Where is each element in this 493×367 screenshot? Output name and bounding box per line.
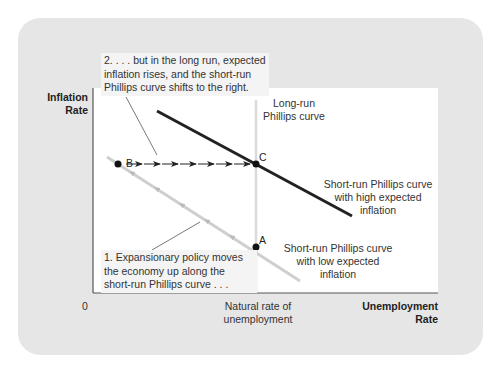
annotation-2-line2: inflation rises, and the short-run (104, 68, 266, 82)
low-srpc-label-line1: Short-run Phillips curve (282, 242, 394, 255)
y-axis-label-line2: Rate (34, 104, 88, 117)
annotation-2-line1: 2. . . . but in the long run, expected (104, 54, 266, 68)
annotation-1: 1. Expansionary policy moves the economy… (101, 250, 257, 293)
lrpc-label-line1: Long-run (258, 97, 330, 110)
natural-rate-label-line2: unemployment (216, 313, 300, 326)
origin-label: 0 (82, 300, 88, 313)
point-b-label: B (126, 157, 133, 169)
low-srpc-label-line2: with low expected (282, 255, 394, 268)
annotation-2: 2. . . . but in the long run, expected i… (101, 53, 269, 96)
high-srpc-label-line2: with high expected (322, 191, 434, 204)
point-c-label: C (259, 151, 267, 163)
y-axis-label-line1: Inflation (34, 91, 88, 104)
natural-rate-label-line1: Natural rate of (216, 300, 300, 313)
x-axis-label-line2: Rate (340, 313, 438, 326)
point-a-label: A (259, 234, 266, 246)
annotation-1-line2: the economy up along the (104, 265, 254, 279)
annotation-2-line3: Phillips curve shifts to the right. (104, 81, 266, 95)
leader-line-1 (152, 222, 200, 250)
high-srpc-label-line3: inflation (322, 204, 434, 217)
lrpc-label: Long-run Phillips curve (258, 97, 330, 123)
annotation-1-line3: short-run Phillips curve . . . (104, 278, 254, 292)
y-axis-label: Inflation Rate (34, 91, 88, 117)
leader-line-2 (126, 97, 157, 155)
point-b (115, 161, 122, 168)
natural-rate-label: Natural rate of unemployment (216, 300, 300, 326)
low-srpc-label-line3: inflation (282, 268, 394, 281)
lrpc-label-line2: Phillips curve (258, 110, 330, 123)
low-srpc-label: Short-run Phillips curve with low expect… (282, 242, 394, 281)
x-axis-label: Unemployment Rate (340, 300, 438, 326)
x-axis-label-line1: Unemployment (340, 300, 438, 313)
high-srpc-label: Short-run Phillips curve with high expec… (322, 178, 434, 217)
annotation-1-line1: 1. Expansionary policy moves (104, 251, 254, 265)
high-srpc-label-line1: Short-run Phillips curve (322, 178, 434, 191)
